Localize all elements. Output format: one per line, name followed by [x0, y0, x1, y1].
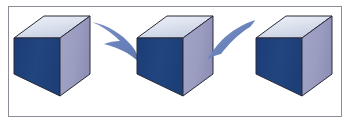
figure-root: Three identical isometric cubes in a row… — [0, 0, 350, 123]
cube-sequence-illustration — [0, 0, 350, 123]
